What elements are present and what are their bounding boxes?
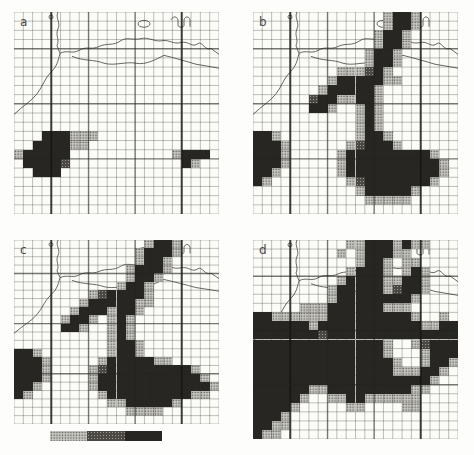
graticule-grid xyxy=(253,240,458,439)
panel-label-c: c xyxy=(20,243,27,257)
legend-swatch-low xyxy=(50,431,87,441)
graticule-grid xyxy=(253,12,458,214)
graticule-grid xyxy=(14,240,219,424)
panel-label-a: a xyxy=(20,15,27,29)
figure-page: a b c d xyxy=(0,0,474,455)
graticule-grid xyxy=(14,12,219,214)
panel-c-map: c xyxy=(14,240,219,424)
panel-b-map: b xyxy=(253,12,458,214)
panel-label-b: b xyxy=(259,15,267,29)
legend-colorbar xyxy=(50,431,162,441)
legend-swatch-medium xyxy=(87,431,124,441)
legend-swatch-high xyxy=(125,431,162,441)
panel-d-map: d xyxy=(253,240,458,439)
panel-label-d: d xyxy=(259,243,267,257)
panel-a-map: a xyxy=(14,12,219,214)
